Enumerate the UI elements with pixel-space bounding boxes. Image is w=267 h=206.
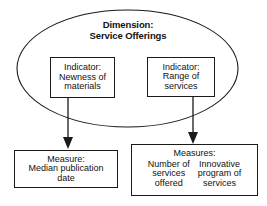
diagram-canvas: Dimension: Service Offerings Indicator: … [0,0,267,206]
connector-newness-to-median [63,98,73,149]
measures-column-number-of-services: Number of services offered [148,160,190,190]
indicator-range-box: Indicator: Range of services [147,57,215,97]
connector-range-to-measures [188,97,198,144]
indicator-range-line3: services [164,82,197,92]
dimension-label: Dimension: Service Offerings [62,20,194,42]
measures-col1-line3: offered [148,179,190,189]
measures-heading: Measures: [173,149,215,159]
measures-columns: Number of services offered Innovative pr… [132,160,257,190]
measures-column-innovative-program: Innovative program of services [198,160,242,190]
measure-median-box: Measure: Median publication date [14,150,118,188]
indicator-newness-box: Indicator: Newness of materials [50,57,115,98]
measures-col2-line3: services [198,179,242,189]
indicator-newness-line3: materials [64,82,101,92]
measure-median-line3: date [57,174,75,184]
measures-services-box: Measures: Number of services offered Inn… [131,144,258,196]
dimension-label-line2: Service Offerings [62,31,194,42]
